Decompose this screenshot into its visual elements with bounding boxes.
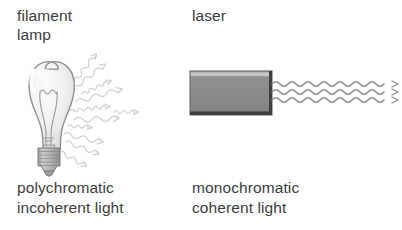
laser-box-icon bbox=[190, 71, 272, 115]
filament-lamp-heading: filament lamp bbox=[17, 6, 72, 44]
light-sources-comparison-diagram: filament lamp bbox=[0, 0, 402, 230]
coherent-light-beam bbox=[272, 81, 398, 103]
laser-heading: laser bbox=[192, 6, 226, 25]
filament-lamp-illustration bbox=[10, 48, 186, 174]
panel-laser: laser bbox=[186, 0, 402, 230]
panel-filament-lamp: filament lamp bbox=[0, 0, 186, 230]
filament-lamp-caption: polychromatic incoherent light bbox=[17, 178, 124, 218]
laser-caption: monochromatic coherent light bbox=[192, 178, 299, 218]
incoherent-light-rays bbox=[59, 52, 138, 168]
light-bulb-icon bbox=[29, 62, 74, 177]
laser-illustration bbox=[186, 60, 402, 132]
bulb-screw-base bbox=[38, 148, 60, 176]
